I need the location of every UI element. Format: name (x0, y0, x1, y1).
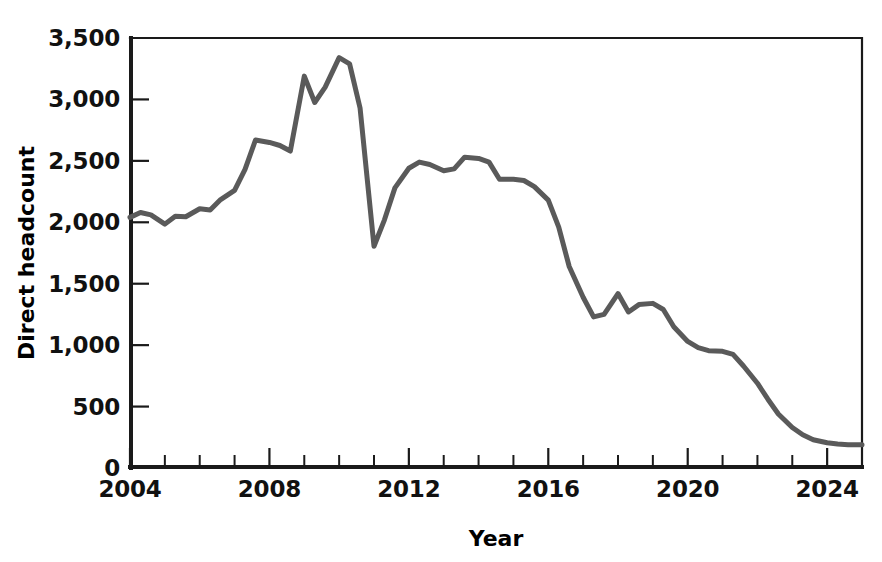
x-axis-ticks (130, 448, 862, 467)
series-line-direct-headcount (130, 58, 862, 445)
y-tick-label: 2,000 (48, 209, 120, 235)
x-tick-label: 2004 (98, 476, 161, 502)
axes (130, 38, 862, 468)
y-tick-label: 3,500 (48, 25, 120, 51)
x-tick-label: 2016 (517, 476, 580, 502)
x-axis-tick-labels: 200420082012201620202024 (98, 476, 858, 502)
y-tick-label: 2,500 (48, 148, 120, 174)
chart-figure: 3,5003,0002,5002,0001,5001,0005000 20042… (0, 0, 882, 562)
y-tick-label: 3,000 (48, 86, 120, 112)
y-axis-ticks (131, 99, 149, 406)
line-chart: 3,5003,0002,5002,0001,5001,0005000 20042… (0, 0, 882, 562)
y-tick-label: 1,000 (48, 332, 120, 358)
x-axis-title: Year (468, 526, 524, 551)
x-tick-label: 2012 (377, 476, 440, 502)
plot-frame (130, 38, 862, 468)
x-tick-label: 2024 (796, 476, 859, 502)
x-tick-label: 2020 (656, 476, 719, 502)
plot-frame-border (130, 38, 862, 468)
x-tick-label: 2008 (238, 476, 301, 502)
data-series-group (130, 58, 862, 445)
y-tick-label: 1,500 (48, 271, 120, 297)
y-axis-title: Direct headcount (14, 146, 39, 360)
y-axis-tick-labels: 3,5003,0002,5002,0001,5001,0005000 (48, 25, 120, 481)
y-tick-label: 500 (73, 394, 120, 420)
